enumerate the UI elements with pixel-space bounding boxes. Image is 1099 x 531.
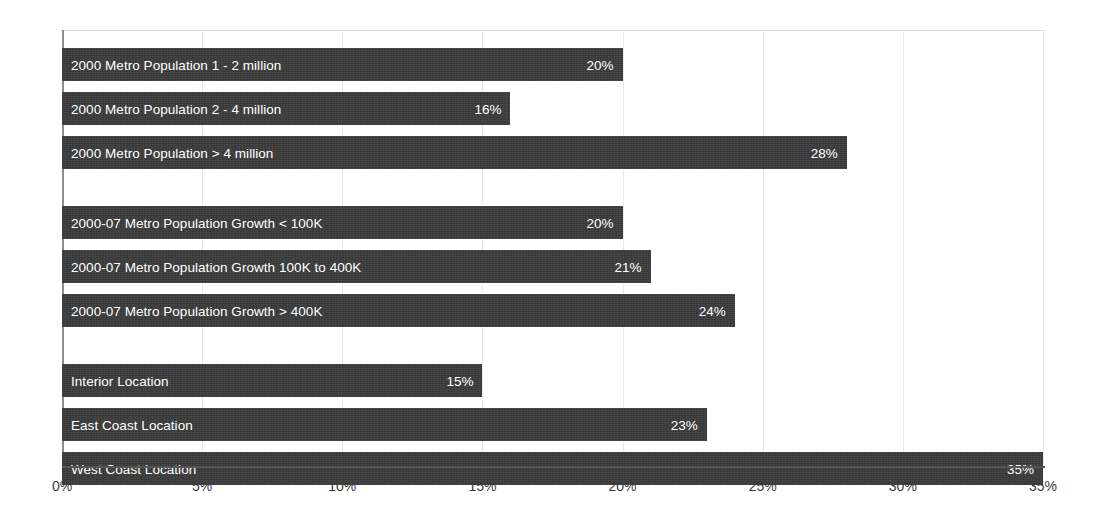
bar-category-label: 2000 Metro Population > 4 million xyxy=(71,145,273,160)
x-tick-label: 10% xyxy=(328,478,356,494)
bar-category-label: 2000 Metro Population 1 - 2 million xyxy=(71,57,281,72)
bar-row: East Coast Location23% xyxy=(62,408,707,441)
bar-row: 2000-07 Metro Population Growth > 400K24… xyxy=(62,294,735,327)
bar-category-label: 2000-07 Metro Population Growth < 100K xyxy=(71,215,322,230)
bar-value-label: 28% xyxy=(811,145,838,160)
bar-value-label: 15% xyxy=(446,373,473,388)
bar-row: 2000 Metro Population > 4 million28% xyxy=(62,136,847,169)
bar: 2000-07 Metro Population Growth < 100K20… xyxy=(62,206,623,239)
bar-value-label: 24% xyxy=(699,303,726,318)
x-tick-label: 0% xyxy=(52,478,72,494)
bar: East Coast Location23% xyxy=(62,408,707,441)
x-tick-label: 30% xyxy=(889,478,917,494)
x-tick-label: 35% xyxy=(1029,478,1057,494)
x-axis-line xyxy=(62,466,1045,468)
bar: 2000 Metro Population 1 - 2 million20% xyxy=(62,48,623,81)
x-tick-label: 5% xyxy=(192,478,212,494)
x-tick-label: 25% xyxy=(749,478,777,494)
bar-category-label: 2000-07 Metro Population Growth > 400K xyxy=(71,303,322,318)
x-tick-label: 20% xyxy=(609,478,637,494)
bar-row: 2000-07 Metro Population Growth < 100K20… xyxy=(62,206,623,239)
bar-category-label: 2000-07 Metro Population Growth 100K to … xyxy=(71,259,361,274)
bar-category-label: East Coast Location xyxy=(71,417,193,432)
bar-series: 2000 Metro Population 1 - 2 million20%20… xyxy=(62,30,1043,466)
bar-category-label: West Coast Location xyxy=(71,461,196,476)
bar-value-label: 35% xyxy=(1007,461,1034,476)
bar: 2000-07 Metro Population Growth 100K to … xyxy=(62,250,651,283)
bar-row: Interior Location15% xyxy=(62,364,482,397)
plot-area: 2000 Metro Population 1 - 2 million20%20… xyxy=(62,30,1043,466)
x-tick-label: 15% xyxy=(468,478,496,494)
bar-row: 2000-07 Metro Population Growth 100K to … xyxy=(62,250,651,283)
bar-category-label: 2000 Metro Population 2 - 4 million xyxy=(71,101,281,116)
bar-chart-figure: 2000 Metro Population 1 - 2 million20%20… xyxy=(0,0,1099,531)
bar: 2000-07 Metro Population Growth > 400K24… xyxy=(62,294,735,327)
gridline-35pct xyxy=(1043,30,1044,466)
bar-value-label: 20% xyxy=(587,215,614,230)
bar-category-label: Interior Location xyxy=(71,373,169,388)
bar: 2000 Metro Population 2 - 4 million16% xyxy=(62,92,510,125)
bar-row: 2000 Metro Population 2 - 4 million16% xyxy=(62,92,510,125)
bar-value-label: 23% xyxy=(671,417,698,432)
bar-value-label: 20% xyxy=(587,57,614,72)
bar-value-label: 21% xyxy=(615,259,642,274)
bar-row: 2000 Metro Population 1 - 2 million20% xyxy=(62,48,623,81)
bar-value-label: 16% xyxy=(474,101,501,116)
bar: Interior Location15% xyxy=(62,364,482,397)
bar: 2000 Metro Population > 4 million28% xyxy=(62,136,847,169)
